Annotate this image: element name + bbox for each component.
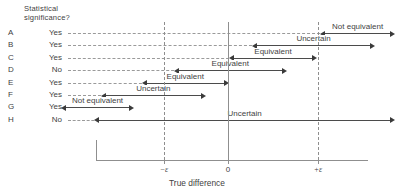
reference-line-minus-epsilon: [164, 22, 165, 160]
confidence-interval-g: [66, 107, 129, 108]
x-axis-line: [96, 160, 368, 161]
conclusion-label-h: Uncertain: [227, 110, 263, 118]
significance-value-a: Yes: [34, 29, 62, 37]
axis-tick-1: [228, 160, 229, 164]
row-id-h: H: [8, 116, 20, 124]
significance-value-f: Yes: [34, 91, 62, 99]
conclusion-label-e: Equivalent: [166, 73, 205, 81]
significance-column-header-line2: significance?: [24, 13, 94, 22]
conclusion-label-g: Not equivalent: [71, 97, 124, 105]
row-id-g: G: [8, 103, 20, 111]
row-id-f: F: [8, 91, 20, 99]
significance-value-c: Yes: [34, 54, 62, 62]
arrow-right-icon: [282, 68, 287, 74]
arrow-left-icon: [61, 105, 66, 111]
row-guide-e: [68, 83, 147, 84]
significance-value-g: Yes: [34, 103, 62, 111]
row-guide-c: [68, 58, 234, 59]
significance-value-e: Yes: [34, 79, 62, 87]
arrow-right-icon: [201, 93, 206, 99]
confidence-interval-a: [325, 33, 390, 34]
significance-value-b: Yes: [34, 41, 62, 49]
arrow-right-icon: [370, 43, 375, 49]
axis-tick-2: [318, 160, 319, 164]
conclusion-label-c: Equivalent: [253, 48, 292, 56]
row-id-c: C: [8, 54, 20, 62]
row-id-b: B: [8, 41, 20, 49]
arrow-right-icon: [312, 55, 317, 61]
reference-line-zero: [228, 22, 229, 160]
conclusion-label-d: Equivalent: [211, 60, 250, 68]
row-id-e: E: [8, 79, 20, 87]
reference-line-plus-epsilon: [318, 22, 319, 160]
confidence-interval-h: [99, 120, 390, 121]
significance-value-h: No: [34, 116, 62, 124]
axis-tick-label-2: +ε: [298, 165, 338, 174]
row-id-a: A: [8, 29, 20, 37]
axis-tick-label-0: −ε: [144, 165, 184, 174]
significance-column-header: Statistical significance?: [24, 4, 94, 23]
row-guide-d: [68, 70, 179, 71]
arrow-right-icon: [129, 105, 134, 111]
significance-column-header-line1: Statistical: [24, 4, 94, 13]
conclusion-label-f: Uncertain: [135, 85, 171, 93]
arrow-left-icon: [94, 117, 99, 123]
conclusion-label-b: Uncertain: [295, 35, 331, 43]
arrow-right-icon: [390, 31, 395, 37]
row-id-d: D: [8, 66, 20, 74]
significance-value-d: No: [34, 66, 62, 74]
axis-tick-0: [164, 160, 165, 164]
conclusion-label-a: Not equivalent: [331, 23, 384, 31]
row-guide-a: [68, 33, 325, 34]
x-axis-title: True difference: [0, 178, 394, 188]
arrow-right-icon: [390, 117, 395, 123]
axis-tick-label-1: 0: [208, 165, 248, 174]
axis-left-spine: [96, 140, 97, 160]
